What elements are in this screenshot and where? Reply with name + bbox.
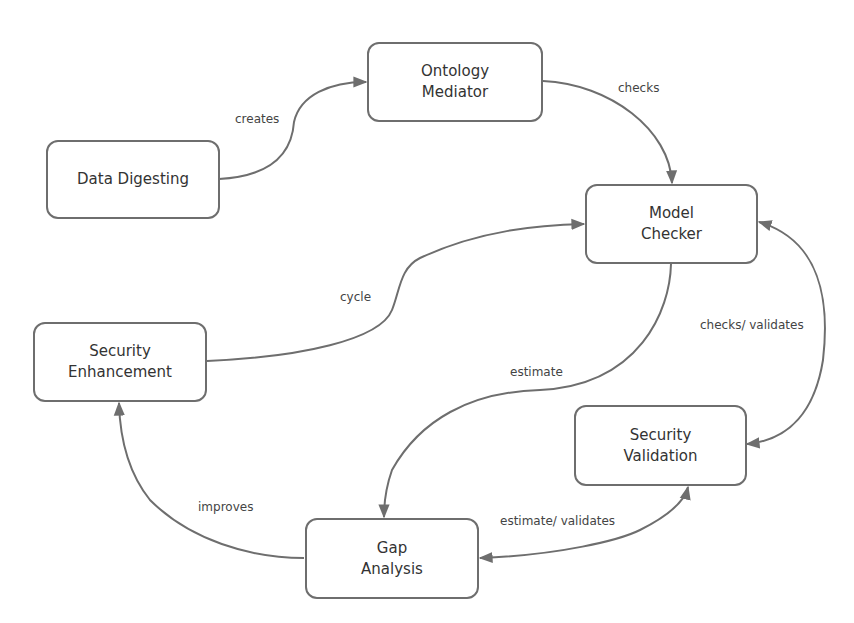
node-label-line2: Enhancement — [68, 362, 172, 383]
node-security-enhancement: Security Enhancement — [33, 322, 207, 402]
node-label-line2: Mediator — [422, 82, 488, 103]
node-model-checker: Model Checker — [585, 184, 758, 264]
node-label-line1: Gap — [377, 538, 407, 559]
node-label-line2: Checker — [641, 224, 702, 245]
node-label-line2: Validation — [623, 446, 697, 467]
edge-creates — [219, 82, 366, 179]
node-label-line2: Analysis — [361, 559, 423, 580]
node-security-validation: Security Validation — [574, 405, 747, 486]
edge-label-creates: creates — [235, 112, 279, 126]
edge-label-cycle: cycle — [340, 290, 371, 304]
node-gap-analysis: Gap Analysis — [305, 518, 479, 599]
node-label-line1: Model — [649, 203, 694, 224]
edge-improves — [119, 403, 304, 558]
edge-cycle — [207, 224, 584, 361]
node-label-line1: Security — [89, 341, 151, 362]
edge-label-estimate: estimate — [510, 365, 563, 379]
edge-checks — [543, 81, 672, 183]
edge-label-checks-validates: checks/ validates — [700, 318, 804, 332]
edge-checks-validates — [747, 222, 825, 444]
node-label-line1: Ontology — [421, 61, 489, 82]
edge-label-improves: improves — [198, 500, 253, 514]
node-ontology-mediator: Ontology Mediator — [367, 42, 543, 122]
node-data-digesting: Data Digesting — [46, 140, 220, 219]
node-label-line1: Security — [630, 425, 692, 446]
node-label: Data Digesting — [77, 169, 189, 190]
edge-label-checks: checks — [618, 81, 659, 95]
edge-label-estimate-validates: estimate/ validates — [500, 514, 615, 528]
